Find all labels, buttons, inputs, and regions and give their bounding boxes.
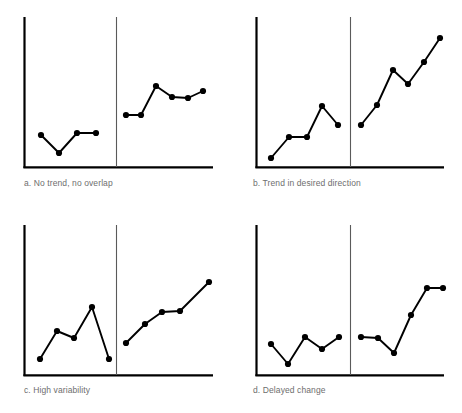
data-point xyxy=(390,67,396,73)
data-point xyxy=(319,103,325,109)
baseline-series-line xyxy=(271,337,339,364)
data-point xyxy=(358,334,364,340)
data-point xyxy=(437,35,443,41)
panel-b-svg xyxy=(231,0,462,175)
data-point xyxy=(123,112,129,118)
intervention-series-line xyxy=(361,38,440,125)
data-point xyxy=(319,346,325,352)
baseline-markers xyxy=(268,334,342,367)
data-point xyxy=(123,340,129,346)
figure-grid: a. No trend, no overlap xyxy=(0,0,462,413)
data-point xyxy=(185,95,191,101)
data-point xyxy=(169,94,175,100)
data-point xyxy=(440,285,446,291)
panel-c: c. High variability xyxy=(0,207,231,413)
intervention-series-line xyxy=(126,86,203,115)
panel-d-svg xyxy=(231,207,462,382)
panel-a-plot xyxy=(0,0,231,175)
panel-c-svg xyxy=(0,207,231,382)
intervention-series-line xyxy=(361,288,443,353)
data-point xyxy=(38,132,44,138)
panel-d: d. Delayed change xyxy=(231,207,462,413)
data-point xyxy=(89,304,95,310)
data-point xyxy=(138,112,144,118)
data-point xyxy=(159,309,165,315)
data-point xyxy=(358,122,364,128)
data-point xyxy=(71,335,77,341)
data-point xyxy=(54,328,60,334)
data-point xyxy=(335,122,341,128)
data-point xyxy=(200,88,206,94)
data-point xyxy=(336,334,342,340)
data-point xyxy=(405,81,411,87)
data-point xyxy=(153,83,159,89)
panel-b: b. Trend in desired direction xyxy=(231,0,462,207)
baseline-series-line xyxy=(41,133,96,153)
intervention-markers xyxy=(358,285,446,356)
intervention-series-line xyxy=(126,282,209,343)
data-point xyxy=(268,341,274,347)
data-point xyxy=(375,335,381,341)
data-point xyxy=(37,356,43,362)
panel-a: a. No trend, no overlap xyxy=(0,0,231,207)
data-point xyxy=(286,134,292,140)
data-point xyxy=(206,279,212,285)
panel-c-caption: c. High variability xyxy=(24,385,90,395)
panel-d-caption: d. Delayed change xyxy=(253,385,326,395)
data-point xyxy=(285,361,291,367)
panel-a-caption: a. No trend, no overlap xyxy=(24,178,113,188)
panel-d-plot xyxy=(231,207,462,382)
baseline-series-line xyxy=(271,106,338,158)
panel-c-plot xyxy=(0,207,231,382)
data-point xyxy=(93,130,99,136)
panel-b-caption: b. Trend in desired direction xyxy=(253,178,361,188)
baseline-series-line xyxy=(40,307,109,359)
data-point xyxy=(177,308,183,314)
data-point xyxy=(374,102,380,108)
data-point xyxy=(142,321,148,327)
data-point xyxy=(304,134,310,140)
data-point xyxy=(302,334,308,340)
data-point xyxy=(421,59,427,65)
data-point xyxy=(391,350,397,356)
data-point xyxy=(74,130,80,136)
data-point xyxy=(106,356,112,362)
data-point xyxy=(56,150,62,156)
panel-b-plot xyxy=(231,0,462,175)
data-point xyxy=(408,312,414,318)
intervention-markers xyxy=(123,83,206,118)
baseline-markers xyxy=(268,103,341,161)
data-point xyxy=(424,285,430,291)
panel-a-svg xyxy=(0,0,231,175)
data-point xyxy=(268,155,274,161)
